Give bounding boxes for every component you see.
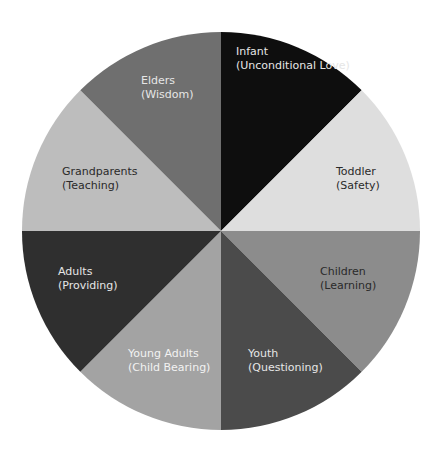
slice-label-elders: Elders(Wisdom) bbox=[141, 74, 193, 102]
slice-label-grandparents: Grandparents(Teaching) bbox=[62, 165, 138, 193]
stage-theme: (Wisdom) bbox=[141, 88, 193, 102]
stage-theme: (Child Bearing) bbox=[128, 361, 210, 375]
slice-label-youth: Youth(Questioning) bbox=[248, 347, 323, 375]
stage-theme: (Teaching) bbox=[62, 179, 138, 193]
stage-name: Toddler bbox=[336, 165, 380, 179]
stage-name: Youth bbox=[248, 347, 323, 361]
stage-theme: (Providing) bbox=[58, 279, 118, 293]
stage-name: Grandparents bbox=[62, 165, 138, 179]
slice-label-toddler: Toddler(Safety) bbox=[336, 165, 380, 193]
slice-label-young-adults: Young Adults(Child Bearing) bbox=[128, 347, 210, 375]
stage-theme: (Questioning) bbox=[248, 361, 323, 375]
stage-name: Infant bbox=[236, 45, 350, 59]
stage-name: Children bbox=[320, 265, 376, 279]
stage-name: Adults bbox=[58, 265, 118, 279]
stage-name: Elders bbox=[141, 74, 193, 88]
slice-label-infant: Infant(Unconditional Love) bbox=[236, 45, 350, 73]
stage-theme: (Learning) bbox=[320, 279, 376, 293]
stage-theme: (Unconditional Love) bbox=[236, 59, 350, 73]
stage-theme: (Safety) bbox=[336, 179, 380, 193]
slice-label-adults: Adults(Providing) bbox=[58, 265, 118, 293]
stage-name: Young Adults bbox=[128, 347, 210, 361]
slice-label-children: Children(Learning) bbox=[320, 265, 376, 293]
life-stages-wheel bbox=[0, 0, 435, 453]
